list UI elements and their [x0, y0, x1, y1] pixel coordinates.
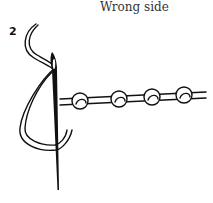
knot-icon [111, 91, 127, 107]
knot-icon [144, 89, 160, 105]
thread-icon [20, 24, 206, 150]
knot-icon [176, 87, 192, 103]
stitch-illustration [0, 0, 213, 203]
knot-icon [72, 93, 88, 109]
stitch-diagram: Wrong side 2 [0, 0, 213, 203]
